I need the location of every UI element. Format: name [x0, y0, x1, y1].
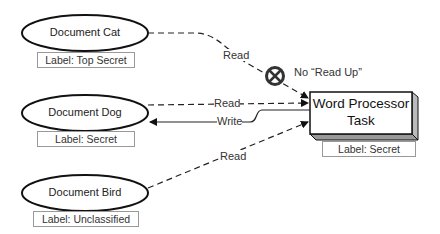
task-title-line2: Task	[347, 113, 375, 128]
task-title: Word Processor Task	[310, 95, 412, 129]
edge-label-dog-write: Write	[217, 115, 242, 127]
task-box-shadow-right	[412, 92, 418, 140]
document-bird-name: Document Bird	[22, 186, 148, 198]
document-cat-label: Label: Top Secret	[37, 52, 135, 68]
edge-label-cat-read: Read	[223, 49, 249, 61]
prohibition-text: No “Read Up”	[294, 66, 362, 78]
task-title-line1: Word Processor	[313, 96, 410, 111]
task-label: Label: Secret	[322, 141, 416, 157]
no-entry-icon	[267, 68, 284, 85]
document-dog-label: Label: Secret	[37, 131, 135, 147]
document-bird-label: Label: Unclassified	[33, 211, 139, 227]
edge-cat-read	[148, 33, 308, 98]
document-cat-name: Document Cat	[22, 26, 148, 38]
edge-label-dog-read: Read	[214, 97, 240, 109]
task-box-shadow-bottom	[310, 134, 418, 140]
edge-label-bird-read: Read	[220, 150, 246, 162]
document-dog-name: Document Dog	[22, 106, 148, 118]
